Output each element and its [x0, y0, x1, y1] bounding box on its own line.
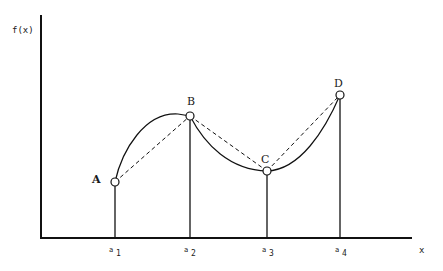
point-b-label: B [187, 95, 195, 108]
point-c-label: C [261, 153, 269, 166]
piecewise-linear-approximation-diagram: f(x) x A B C D a 1 a 2 a 3 a 4 [0, 0, 443, 271]
tick-label-a3: a 3 [262, 246, 274, 258]
svg-text:4: 4 [342, 249, 347, 258]
function-curve [115, 95, 340, 182]
chord-cd [267, 95, 340, 171]
y-axis-label: f(x) [12, 25, 34, 35]
chord-bc [190, 116, 267, 171]
svg-text:a: a [335, 246, 339, 254]
svg-text:a: a [184, 246, 188, 254]
chord-ab [115, 116, 190, 182]
svg-text:1: 1 [116, 249, 121, 258]
svg-text:a: a [109, 246, 113, 254]
svg-text:a: a [262, 246, 266, 254]
tick-label-a1: a 1 [109, 246, 121, 258]
x-axis-label: x [419, 245, 425, 255]
point-a-label: A [91, 173, 101, 186]
tick-label-a2: a 2 [184, 246, 196, 258]
point-d-label: D [334, 77, 343, 90]
point-b-marker [186, 112, 194, 120]
tick-label-a4: a 4 [335, 246, 347, 258]
svg-text:2: 2 [191, 249, 196, 258]
point-a-marker [111, 178, 119, 186]
point-c-marker [263, 167, 271, 175]
point-d-marker [336, 91, 344, 99]
svg-text:3: 3 [269, 249, 274, 258]
